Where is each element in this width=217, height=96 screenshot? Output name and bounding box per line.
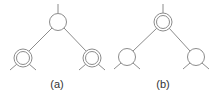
- root-node-single: [50, 14, 67, 31]
- edge-root-left: [133, 28, 157, 51]
- left-child-left-edge: [10, 64, 17, 70]
- edge-root-left: [29, 28, 52, 51]
- tree-diagram: (a) (b): [0, 0, 217, 96]
- panel-b: (b): [114, 4, 209, 90]
- panel-a: (a): [10, 4, 105, 90]
- left-child-right-edge: [29, 64, 36, 70]
- root-node-double-inner: [157, 16, 170, 29]
- panel-a-label: (a): [50, 78, 63, 90]
- right-child-node-double-inner: [86, 52, 99, 65]
- right-child-left-edge: [183, 63, 190, 69]
- right-child-right-edge: [98, 64, 105, 70]
- left-child-left-edge: [114, 63, 121, 69]
- right-child-node-single: [188, 49, 205, 66]
- edge-root-right: [169, 28, 190, 51]
- left-child-right-edge: [133, 63, 140, 69]
- panel-b-label: (b): [156, 78, 169, 90]
- left-child-node-double-inner: [17, 52, 30, 65]
- edge-root-right: [64, 28, 86, 51]
- right-child-left-edge: [79, 64, 86, 70]
- right-child-right-edge: [202, 63, 209, 69]
- left-child-node-single: [119, 49, 136, 66]
